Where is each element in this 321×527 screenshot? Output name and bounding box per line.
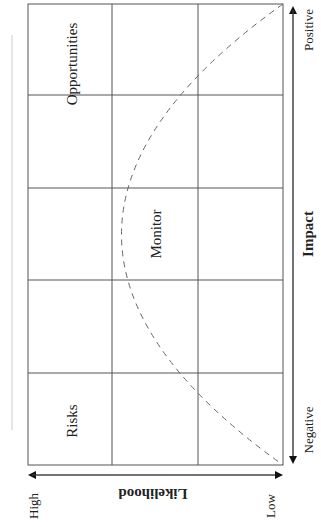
likelihood-axis-title: Likelihood	[118, 486, 188, 502]
impact-positive-label: Positive	[301, 9, 316, 51]
likelihood-low-label: Low	[263, 493, 278, 517]
impact-axis-title: Impact	[300, 211, 316, 257]
likelihood-curve	[122, 4, 284, 465]
cell-label-monitor: Monitor	[148, 209, 164, 258]
cell-label-risks: Risks	[64, 404, 80, 438]
likelihood-high-label: High	[26, 493, 41, 520]
matrix-diagram: Opportunities Monitor Risks Positive Imp…	[0, 0, 321, 527]
cell-label-opportunities: Opportunities	[64, 23, 80, 106]
impact-negative-label: Negative	[301, 406, 316, 453]
